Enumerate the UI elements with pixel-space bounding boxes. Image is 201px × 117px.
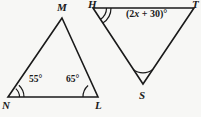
- triangle-mnl-outline: [8, 18, 98, 97]
- vertex-label-m: M: [57, 2, 67, 13]
- triangle-mnl: [8, 18, 98, 97]
- angle-arc-n-inner: [16, 89, 20, 97]
- geometry-figure: M N L H T S 55° 65° (2x + 30)°: [0, 0, 201, 117]
- vertex-label-s: S: [139, 90, 145, 101]
- vertex-label-t: T: [192, 0, 199, 10]
- angle-arc-h-inner: [100, 8, 106, 19]
- triangle-hts: [93, 8, 194, 84]
- vertex-label-l: L: [95, 100, 102, 111]
- angle-measure-n: 55°: [29, 75, 42, 85]
- angle-measure-l: 65°: [66, 75, 79, 85]
- angle-t-suffix: + 30)°: [139, 8, 167, 19]
- vertex-label-n: N: [2, 100, 10, 111]
- angle-measure-t: (2x + 30)°: [126, 9, 167, 19]
- angle-arc-l: [83, 86, 88, 98]
- vertex-label-h: H: [88, 0, 97, 10]
